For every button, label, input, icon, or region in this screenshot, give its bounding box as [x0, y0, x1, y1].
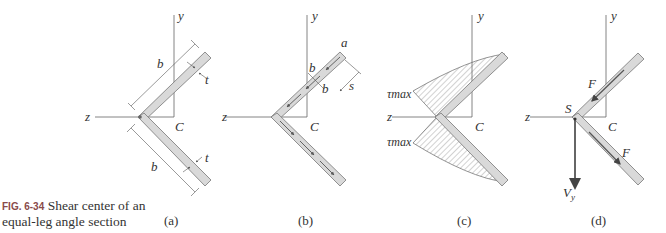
dim-b-upper: b: [157, 56, 164, 71]
caption-line-1: Shear center of an: [48, 198, 146, 213]
y-axis-label: y: [310, 8, 318, 23]
panel-label-b: (b): [298, 213, 313, 228]
panel-c: τmax τmax y z C (c): [386, 8, 508, 228]
panel-label-a: (a): [164, 213, 178, 228]
panel-label-d: (d): [591, 213, 606, 228]
y-axis-label: y: [476, 8, 484, 23]
figure-caption: FIG. 6-34 Shear center of an equal-leg a…: [2, 198, 145, 229]
panel-d: F F S Vy y z C (d): [524, 8, 644, 228]
z-axis-label: z: [386, 109, 392, 124]
tau-max-lower-label: τmax: [387, 135, 412, 149]
dim-b-lower: b: [151, 159, 158, 174]
centroid-label: C: [475, 119, 484, 134]
shear-center-label: S: [565, 101, 572, 116]
z-axis-label: z: [84, 109, 90, 124]
caption-line-2: equal-leg angle section: [2, 214, 126, 229]
section-cut-b-bottom: b: [322, 81, 329, 96]
figure-number: FIG. 6-34: [2, 201, 44, 212]
coordinate-s: s: [349, 78, 354, 93]
force-f-lower-label: F: [621, 145, 631, 160]
panel-label-c: (c): [457, 213, 471, 228]
upper-leg: [572, 53, 644, 121]
end-label-a: a: [341, 35, 348, 50]
centroid-label: C: [175, 119, 184, 134]
centroid-label: C: [310, 119, 319, 134]
thickness-t-lower: t: [205, 150, 209, 165]
panel-a: y z C b b t t (a): [84, 8, 211, 228]
z-axis-label: z: [524, 109, 530, 124]
y-axis-label: y: [609, 8, 617, 23]
panel-b: a b b s y z C (b): [221, 8, 361, 228]
force-f-upper-label: F: [587, 76, 597, 91]
tau-max-upper-label: τmax: [387, 87, 412, 101]
shear-force-label: Vy: [563, 185, 575, 202]
shear-center-point: [573, 117, 576, 120]
section-cut-b-top: b: [309, 60, 316, 75]
force-f-upper-arrow: [592, 70, 624, 101]
centroid-label: C: [608, 119, 617, 134]
y-axis-label: y: [176, 8, 184, 23]
force-f-lower-arrow: [589, 132, 620, 164]
thickness-t-upper: t: [205, 72, 209, 87]
upper-leg: [138, 52, 211, 121]
z-axis-label: z: [221, 109, 227, 124]
